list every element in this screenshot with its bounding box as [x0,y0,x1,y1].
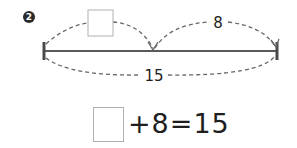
equation: +8=15 [93,106,230,142]
tape-diagram: 8 15 [0,0,297,100]
unknown-part-box [88,10,113,36]
known-part-label: 8 [213,14,223,32]
equation-text: +8=15 [128,106,230,142]
total-label: 15 [144,67,163,85]
answer-blank-box[interactable] [93,107,124,142]
